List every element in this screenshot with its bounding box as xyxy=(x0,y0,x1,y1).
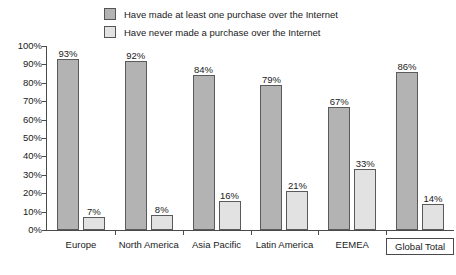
y-axis-tick-label: 10% xyxy=(0,207,42,217)
bar-chart: Have made at least one purchase over the… xyxy=(0,0,456,275)
x-axis-group-tick xyxy=(318,231,319,235)
bar-group: 86%14% xyxy=(386,46,454,230)
y-axis-tick-mark xyxy=(42,64,46,65)
y-axis-tick-mark xyxy=(42,138,46,139)
x-axis-group-tick xyxy=(115,231,116,235)
x-axis-category-label: Latin America xyxy=(251,238,319,251)
legend-item-series-a: Have made at least one purchase over the… xyxy=(104,6,404,22)
y-axis-tick-label: 40% xyxy=(0,151,42,161)
y-axis-tick-mark xyxy=(42,101,46,102)
legend-swatch-light-icon xyxy=(104,26,116,38)
bar-value-label: 8% xyxy=(155,204,169,215)
bar-group: 93%7% xyxy=(47,46,115,230)
bar-value-label: 84% xyxy=(194,64,213,75)
bar-value-label: 33% xyxy=(356,158,375,169)
bar-series-a: 67% xyxy=(328,107,350,230)
bar-series-b: 7% xyxy=(83,217,105,230)
bar-value-label: 67% xyxy=(330,96,349,107)
y-axis-tick-mark xyxy=(42,83,46,84)
y-axis-tick-mark xyxy=(42,193,46,194)
bars-container: 93%7%92%8%84%16%79%21%67%33%86%14% xyxy=(47,46,454,230)
bar-group: 67%33% xyxy=(318,46,386,230)
bar-value-label: 93% xyxy=(58,48,77,59)
bar-group: 84%16% xyxy=(183,46,251,230)
y-axis-tick-mark xyxy=(42,230,46,231)
bar-value-label: 16% xyxy=(220,190,239,201)
bar-series-a: 79% xyxy=(260,85,282,230)
x-axis-category-label: Asia Pacific xyxy=(183,238,251,251)
legend-swatch-dark-icon xyxy=(104,8,116,20)
y-axis-tick-label: 70% xyxy=(0,96,42,106)
y-axis-tick-label: 90% xyxy=(0,59,42,69)
x-axis-category-label: Europe xyxy=(47,238,115,251)
plot-area: 100%90%80%70%60%50%40%30%20%10%0% 93%7%9… xyxy=(0,46,456,236)
bar-value-label: 14% xyxy=(424,193,443,204)
y-axis-tick-label: 30% xyxy=(0,170,42,180)
y-axis-tick-label: 100% xyxy=(0,41,42,51)
bar-series-b: 8% xyxy=(151,215,173,230)
bar-series-b: 21% xyxy=(286,191,308,230)
y-axis-tick-mark xyxy=(42,212,46,213)
x-axis-category-label: North America xyxy=(115,238,183,251)
bar-value-label: 7% xyxy=(87,206,101,217)
y-axis-tick-mark xyxy=(42,46,46,47)
bar-series-a: 86% xyxy=(396,72,418,230)
x-axis-category-label: EEMEA xyxy=(318,238,386,251)
bar-group: 92%8% xyxy=(115,46,183,230)
bar-series-a: 93% xyxy=(57,59,79,230)
y-axis-tick-label: 50% xyxy=(0,133,42,143)
y-axis-tick-mark xyxy=(42,156,46,157)
y-axis-tick-label: 80% xyxy=(0,78,42,88)
bar-series-a: 84% xyxy=(193,75,215,230)
bar-value-label: 92% xyxy=(126,50,145,61)
x-axis-labels: EuropeNorth AmericaAsia PacificLatin Ame… xyxy=(47,238,454,256)
x-axis-category-label: Global Total xyxy=(386,238,454,255)
chart-legend: Have made at least one purchase over the… xyxy=(104,6,404,42)
bar-value-label: 79% xyxy=(262,74,281,85)
bar-value-label: 21% xyxy=(288,180,307,191)
x-axis-group-tick xyxy=(386,231,387,235)
y-axis-tick-mark xyxy=(42,120,46,121)
legend-label-series-a: Have made at least one purchase over the… xyxy=(124,9,338,20)
x-axis-group-tick xyxy=(183,231,184,235)
y-axis-tick-label: 20% xyxy=(0,188,42,198)
bar-series-a: 92% xyxy=(125,61,147,230)
y-axis-tick-label: 0% xyxy=(0,225,42,235)
y-axis-tick-label: 60% xyxy=(0,115,42,125)
bar-series-b: 33% xyxy=(354,169,376,230)
y-axis-tick-mark xyxy=(42,175,46,176)
bar-series-b: 14% xyxy=(422,204,444,230)
y-axis-labels: 100%90%80%70%60%50%40%30%20%10%0% xyxy=(0,46,42,230)
bar-series-b: 16% xyxy=(219,201,241,230)
legend-label-series-b: Have never made a purchase over the Inte… xyxy=(124,27,320,38)
x-axis-group-tick xyxy=(251,231,252,235)
legend-item-series-b: Have never made a purchase over the Inte… xyxy=(104,24,404,40)
bar-group: 79%21% xyxy=(251,46,319,230)
bar-value-label: 86% xyxy=(398,61,417,72)
